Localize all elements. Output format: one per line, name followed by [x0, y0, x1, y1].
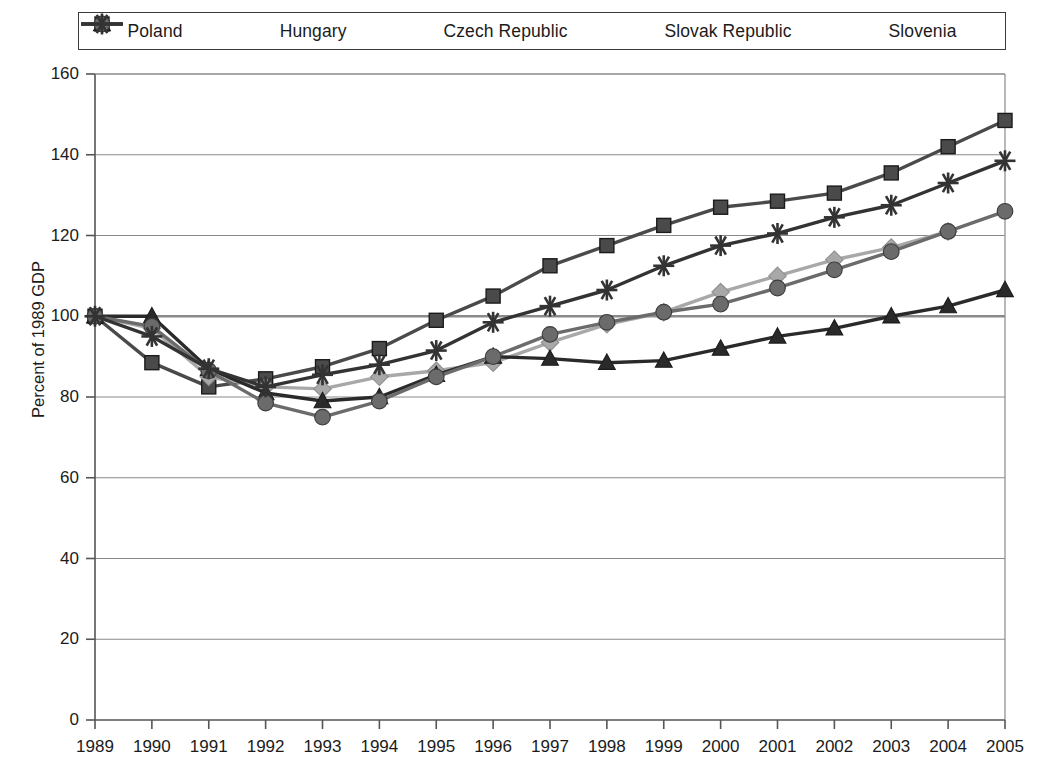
data-point-square	[600, 239, 614, 253]
x-tick-label: 1991	[179, 738, 239, 755]
y-tick-label: 160	[33, 65, 79, 82]
data-point-circle	[940, 224, 956, 240]
axis-lines	[86, 74, 1005, 729]
data-point-circle	[656, 304, 672, 320]
data-point-asterisk	[369, 354, 390, 375]
y-tick-label: 140	[33, 146, 79, 163]
gdp-line-chart: PolandHungaryCzech RepublicSlovak Republ…	[0, 0, 1054, 776]
x-tick-label: 1998	[577, 738, 637, 755]
x-tick-label: 2004	[918, 738, 978, 755]
data-point-square	[714, 200, 728, 214]
data-point-square	[429, 313, 443, 327]
data-point-circle	[372, 393, 388, 409]
x-tick-label: 1996	[463, 738, 523, 755]
data-point-circle	[315, 409, 331, 425]
data-point-triangle	[997, 281, 1014, 296]
y-tick-label: 0	[33, 711, 79, 728]
x-tick-label: 1992	[236, 738, 296, 755]
y-tick-label: 20	[33, 630, 79, 647]
data-point-circle	[997, 203, 1013, 219]
data-point-asterisk	[596, 280, 617, 301]
data-point-asterisk	[540, 296, 561, 317]
x-tick-label: 1993	[293, 738, 353, 755]
data-point-asterisk	[483, 312, 504, 333]
data-point-asterisk	[881, 195, 902, 216]
data-point-square	[771, 194, 785, 208]
x-tick-label: 1994	[349, 738, 409, 755]
data-point-circle	[827, 262, 843, 278]
x-tick-label: 1995	[406, 738, 466, 755]
data-point-square	[372, 342, 386, 356]
y-tick-label: 80	[33, 388, 79, 405]
data-point-asterisk	[767, 223, 788, 244]
y-tick-label: 60	[33, 469, 79, 486]
data-point-square	[941, 140, 955, 154]
y-tick-label: 40	[33, 550, 79, 567]
x-tick-label: 2003	[861, 738, 921, 755]
plot-area	[0, 0, 1054, 776]
data-point-square	[543, 259, 557, 273]
data-point-circle	[883, 244, 899, 260]
x-tick-label: 1999	[634, 738, 694, 755]
data-point-circle	[770, 280, 786, 296]
x-tick-label: 2000	[691, 738, 751, 755]
data-point-square	[827, 186, 841, 200]
data-point-asterisk	[710, 235, 731, 256]
x-tick-label: 2002	[804, 738, 864, 755]
data-point-square	[145, 356, 159, 370]
x-tick-label: 2001	[748, 738, 808, 755]
y-tick-label: 120	[33, 227, 79, 244]
data-point-circle	[258, 395, 274, 411]
data-point-square	[657, 218, 671, 232]
x-tick-label: 1990	[122, 738, 182, 755]
x-tick-label: 1989	[65, 738, 125, 755]
data-point-asterisk	[824, 207, 845, 228]
data-point-circle	[428, 369, 444, 385]
x-tick-label: 2005	[975, 738, 1035, 755]
data-point-asterisk	[995, 150, 1016, 171]
data-point-circle	[542, 327, 558, 343]
y-tick-label: 100	[33, 307, 79, 324]
data-point-circle	[713, 296, 729, 312]
data-point-square	[884, 166, 898, 180]
data-point-square	[486, 289, 500, 303]
data-point-asterisk	[653, 255, 674, 276]
data-point-square	[998, 113, 1012, 127]
data-point-circle	[599, 314, 615, 330]
data-point-circle	[485, 349, 501, 365]
data-point-asterisk	[426, 340, 447, 361]
data-point-asterisk	[938, 173, 959, 194]
x-tick-label: 1997	[520, 738, 580, 755]
